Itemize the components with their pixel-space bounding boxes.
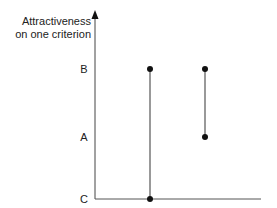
point-a [202,134,208,140]
y-axis-arrow-icon [92,10,99,19]
point-b-right [202,66,208,72]
y-axis-label: Attractiveness on one criterion [15,15,91,41]
point-b-left [147,66,153,72]
level-label-c: C [74,193,94,206]
level-label-a: A [74,131,94,144]
y-axis-label-line1: Attractiveness [15,15,91,28]
point-c [147,196,153,202]
level-label-b: B [74,63,94,76]
y-axis-label-line2: on one criterion [15,28,91,41]
